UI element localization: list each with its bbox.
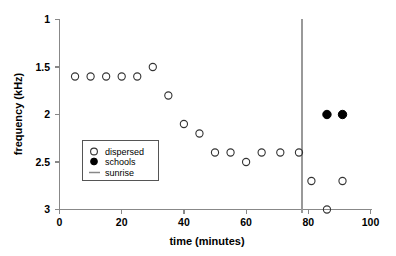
data-point-schools bbox=[338, 110, 346, 118]
legend-label-dispersed: dispersed bbox=[105, 147, 144, 157]
y-axis-title: frequency (kHz) bbox=[12, 72, 24, 155]
x-tick-label: 100 bbox=[362, 216, 380, 228]
y-tick-label: 2 bbox=[44, 108, 50, 120]
y-tick-label: 1 bbox=[44, 13, 50, 25]
y-tick-label: 1.5 bbox=[35, 61, 50, 73]
chart-figure: 1 1.5 2 2.5 3 0 20 40 60 80 100 time (mi… bbox=[0, 0, 396, 256]
legend-marker-schools bbox=[91, 158, 98, 165]
legend-label-sunrise: sunrise bbox=[105, 168, 134, 178]
x-tick-label: 60 bbox=[240, 216, 252, 228]
scatter-plot-svg: 1 1.5 2 2.5 3 0 20 40 60 80 100 time (mi… bbox=[0, 0, 396, 256]
x-axis-title: time (minutes) bbox=[169, 235, 245, 247]
x-tick-label: 20 bbox=[116, 216, 128, 228]
legend: dispersed schools sunrise bbox=[83, 141, 159, 181]
legend-label-schools: schools bbox=[105, 157, 136, 167]
y-tick-label: 3 bbox=[44, 203, 50, 215]
x-tick-label: 0 bbox=[57, 216, 63, 228]
x-tick-label: 40 bbox=[178, 216, 190, 228]
y-tick-label: 2.5 bbox=[35, 156, 50, 168]
x-tick-label: 80 bbox=[302, 216, 314, 228]
data-point-schools bbox=[323, 110, 331, 118]
